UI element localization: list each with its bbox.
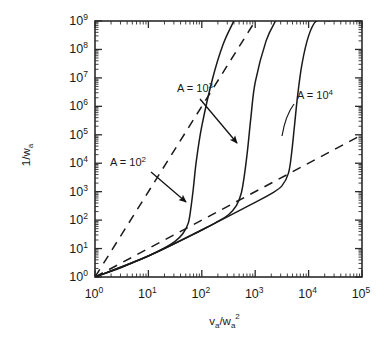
tick-base: 10 bbox=[85, 287, 99, 301]
tick-exponent: 3 bbox=[83, 183, 88, 193]
y-tick-label: 109 bbox=[69, 12, 88, 28]
tick-exponent: 1 bbox=[83, 240, 88, 250]
x-tick-label: 103 bbox=[245, 285, 264, 301]
tick-base: 10 bbox=[69, 71, 83, 85]
tick-base: 10 bbox=[352, 287, 366, 301]
y-tick-label: 104 bbox=[69, 154, 88, 170]
figure-container: 100101102103104105 100101102103104105106… bbox=[0, 0, 387, 348]
tick-exponent: 5 bbox=[83, 126, 88, 136]
x-tick-label: 102 bbox=[191, 285, 210, 301]
anno-exponent: 3 bbox=[209, 81, 214, 90]
tick-exponent: 0 bbox=[99, 285, 104, 295]
series-2-curve bbox=[95, 20, 330, 277]
tick-base: 10 bbox=[245, 287, 259, 301]
anno-exponent: 4 bbox=[329, 88, 334, 97]
y-tick-labels: 100101102103104105106107108109 bbox=[69, 12, 88, 284]
y-tick-label: 106 bbox=[69, 97, 88, 113]
y-axis-title: 1/wa bbox=[20, 143, 35, 166]
tick-base: 10 bbox=[191, 287, 205, 301]
tick-base: 10 bbox=[69, 242, 83, 256]
plot-border bbox=[95, 21, 362, 277]
tick-exponent: 4 bbox=[312, 285, 317, 295]
tick-exponent: 9 bbox=[83, 12, 88, 22]
anno-a3-arrow bbox=[200, 99, 237, 143]
tick-base: 10 bbox=[69, 185, 83, 199]
tick-exponent: 7 bbox=[83, 69, 88, 79]
x-tick-label: 105 bbox=[352, 285, 371, 301]
x-title-sub-a2: a bbox=[231, 321, 236, 330]
x-tick-label: 104 bbox=[298, 285, 317, 301]
anno-a3-label: A = 103 bbox=[177, 81, 214, 95]
x-tick-labels: 100101102103104105 bbox=[85, 285, 371, 301]
x-title-sup-2: 2 bbox=[235, 312, 240, 321]
tick-exponent: 0 bbox=[83, 268, 88, 278]
y-tick-label: 103 bbox=[69, 183, 88, 199]
plot-frame bbox=[95, 21, 362, 277]
anno-text: A = 10 bbox=[110, 156, 142, 168]
tick-base: 10 bbox=[298, 287, 312, 301]
tick-base: 10 bbox=[69, 42, 83, 56]
anno-a2-label: A = 102 bbox=[110, 155, 147, 169]
anno-a2-arrow bbox=[151, 172, 186, 202]
anno-text: A = 10 bbox=[297, 89, 329, 101]
series-0-curve bbox=[95, 21, 234, 277]
tick-base: 10 bbox=[69, 270, 83, 284]
tick-exponent: 2 bbox=[205, 285, 210, 295]
anno-a4-leader bbox=[282, 104, 294, 136]
y-tick-label: 102 bbox=[69, 211, 88, 227]
tick-base: 10 bbox=[69, 99, 83, 113]
y-title-base: 1/w bbox=[20, 148, 32, 167]
x-tick-label: 101 bbox=[138, 285, 157, 301]
tick-base: 10 bbox=[69, 14, 83, 28]
tick-exponent: 5 bbox=[366, 285, 371, 295]
anno-exponent: 2 bbox=[142, 155, 147, 164]
tick-base: 10 bbox=[138, 287, 152, 301]
y-tick-label: 105 bbox=[69, 126, 88, 142]
tick-exponent: 1 bbox=[152, 285, 157, 295]
chart-plot: 100101102103104105 100101102103104105106… bbox=[0, 0, 387, 348]
series-3-dashed bbox=[95, 21, 255, 277]
tick-base: 10 bbox=[69, 128, 83, 142]
tick-exponent: 6 bbox=[83, 97, 88, 107]
x-axis-title: va/wa2 bbox=[209, 312, 240, 330]
y-tick-label: 101 bbox=[69, 240, 88, 256]
anno-a4-label: A = 104 bbox=[297, 88, 334, 102]
tick-exponent: 3 bbox=[259, 285, 264, 295]
axis-titles-group: va/wa21/wa bbox=[20, 143, 240, 330]
x-title-slash-w: /w bbox=[219, 315, 231, 327]
tick-base: 10 bbox=[69, 213, 83, 227]
y-tick-label: 100 bbox=[69, 268, 88, 284]
y-title-sub-a: a bbox=[26, 143, 35, 148]
tick-base: 10 bbox=[69, 156, 83, 170]
y-tick-label: 108 bbox=[69, 40, 88, 56]
x-tick-label: 100 bbox=[85, 285, 104, 301]
tick-exponent: 4 bbox=[83, 154, 88, 164]
anno-text: A = 10 bbox=[177, 82, 209, 94]
axis-ticks bbox=[95, 21, 362, 277]
tick-exponent: 8 bbox=[83, 40, 88, 50]
y-tick-label: 107 bbox=[69, 69, 88, 85]
annotations-group: A = 102A = 103A = 104 bbox=[110, 81, 334, 203]
tick-exponent: 2 bbox=[83, 211, 88, 221]
data-series-group bbox=[95, 20, 362, 277]
